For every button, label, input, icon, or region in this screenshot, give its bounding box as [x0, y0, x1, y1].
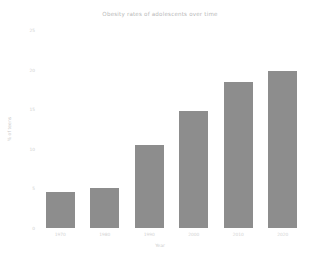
y-tick-label: 5 [0, 186, 35, 191]
y-tick-label: 0 [0, 226, 35, 231]
x-axis-label: Year [0, 243, 320, 248]
chart-figure: Obesity rates of adolescents over time 0… [0, 0, 320, 257]
bar-slot [172, 30, 216, 228]
bar-slot [127, 30, 171, 228]
x-tick-label: 2010 [216, 232, 260, 237]
bar-2020[interactable] [268, 71, 297, 228]
bar-slot [83, 30, 127, 228]
bar-2010[interactable] [224, 82, 253, 228]
bar-slot [261, 30, 305, 228]
x-tick-label: 1980 [83, 232, 127, 237]
y-tick-label: 20 [0, 67, 35, 72]
bar-slot [216, 30, 260, 228]
bar-1970[interactable] [46, 192, 75, 228]
x-tick-label: 2020 [261, 232, 305, 237]
y-tick-label: 10 [0, 146, 35, 151]
x-tick-label: 2000 [172, 232, 216, 237]
x-tick-label: 1990 [127, 232, 171, 237]
y-tick-label: 25 [0, 28, 35, 33]
x-tick-label: 1970 [38, 232, 82, 237]
bar-2000[interactable] [179, 111, 208, 228]
y-tick-label: 15 [0, 107, 35, 112]
bar-slot [38, 30, 82, 228]
bar-series [38, 30, 305, 228]
y-axis-label: % of teens [7, 117, 12, 141]
plot-area [38, 30, 305, 228]
bar-1980[interactable] [90, 188, 119, 228]
chart-title: Obesity rates of adolescents over time [0, 11, 320, 17]
bar-1990[interactable] [135, 145, 164, 228]
